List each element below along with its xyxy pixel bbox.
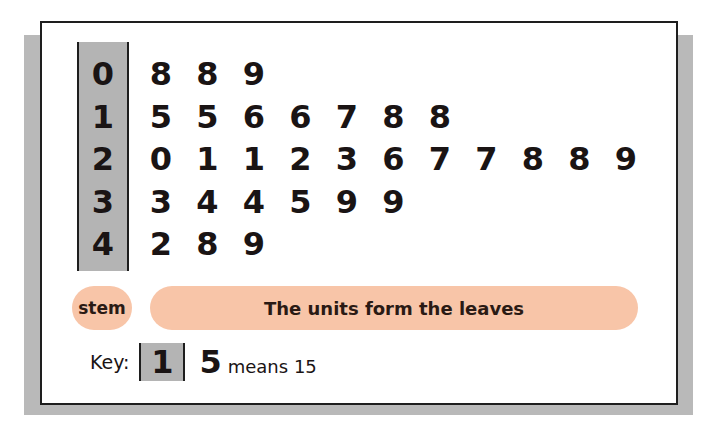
- stem-leaf-row: 4289: [42, 223, 676, 265]
- leaf-value: 7: [425, 138, 455, 180]
- key-meaning: means 15: [228, 348, 317, 377]
- stem-leaf-row: 3344599: [42, 181, 676, 223]
- leaf-value: 2: [146, 223, 176, 265]
- leaf-value: 3: [146, 181, 176, 223]
- leaf-value: 8: [146, 53, 176, 95]
- key-legend: Key: 1 5 means 15: [90, 341, 317, 383]
- stem-leaf-row: 15566788: [42, 96, 676, 138]
- leaf-value: 8: [379, 96, 409, 138]
- leaf-value: 8: [425, 96, 455, 138]
- leaf-value: 7: [472, 138, 502, 180]
- leaf-value: 1: [239, 138, 269, 180]
- leaf-value: 9: [611, 138, 641, 180]
- leaf-value: 2: [286, 138, 316, 180]
- leaf-value: 6: [239, 96, 269, 138]
- leaf-value: 0: [146, 138, 176, 180]
- leaf-value: 4: [239, 181, 269, 223]
- leaf-value: 8: [193, 223, 223, 265]
- leaf-value: 3: [332, 138, 362, 180]
- leaf-value: 7: [332, 96, 362, 138]
- stem-value: 3: [77, 181, 129, 223]
- stem-value: 0: [77, 53, 129, 95]
- leaf-value: 6: [286, 96, 316, 138]
- leaf-value: 5: [193, 96, 223, 138]
- stem-leaf-row: 201123677889: [42, 138, 676, 180]
- leaf-value: 5: [286, 181, 316, 223]
- leaf-value: 1: [193, 138, 223, 180]
- leaf-value: 9: [239, 53, 269, 95]
- key-label: Key:: [90, 351, 129, 373]
- stem-value: 2: [77, 138, 129, 180]
- stem-label: stem: [78, 298, 126, 318]
- stem-leaf-row: 0889: [42, 53, 676, 95]
- key-leaf: 5: [199, 343, 221, 381]
- stem-value: 1: [77, 96, 129, 138]
- leaf-value: 4: [193, 181, 223, 223]
- leaf-value: 5: [146, 96, 176, 138]
- leaf-value: 9: [332, 181, 362, 223]
- leaf-value: 8: [193, 53, 223, 95]
- leaf-value: 9: [379, 181, 409, 223]
- stem-and-leaf-card: 08891556678820112367788933445994289 stem…: [40, 21, 678, 405]
- stem-label-pill: stem: [72, 286, 132, 330]
- leaf-value: 8: [518, 138, 548, 180]
- leaves-label: The units form the leaves: [264, 298, 524, 319]
- leaves-label-pill: The units form the leaves: [150, 286, 638, 330]
- stem-value: 4: [77, 223, 129, 265]
- key-stem: 1: [139, 343, 185, 381]
- leaf-value: 6: [379, 138, 409, 180]
- leaf-value: 9: [239, 223, 269, 265]
- leaf-value: 8: [565, 138, 595, 180]
